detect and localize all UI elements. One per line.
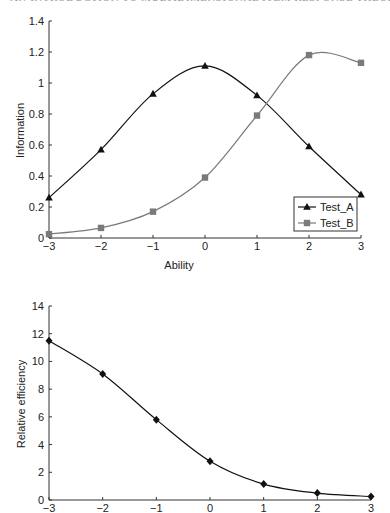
series-line	[49, 341, 371, 497]
y-axis-label: Information	[14, 103, 26, 158]
x-tick-label: −1	[150, 502, 163, 513]
square-marker	[202, 174, 208, 180]
y-tick-label: 6	[38, 411, 44, 423]
diamond-marker	[368, 493, 375, 501]
y-tick-label: 1	[38, 77, 44, 89]
x-tick-label: 0	[202, 240, 208, 252]
x-tick-label: 2	[306, 240, 312, 252]
x-tick-label: 3	[368, 502, 374, 513]
y-tick-label: 8	[38, 383, 44, 395]
square-marker	[150, 208, 156, 214]
relative-efficiency-chart: 02468101214−3−2−10123Relative efficiency	[15, 300, 375, 513]
y-tick-label: 1.2	[29, 46, 44, 58]
x-tick-label: 0	[207, 502, 213, 513]
y-axis-label: Relative efficiency	[15, 359, 27, 448]
square-marker	[254, 112, 260, 118]
x-tick-label: 3	[358, 240, 364, 252]
y-tick-label: 1.4	[29, 15, 44, 27]
y-tick-label: 14	[32, 300, 44, 312]
triangle-marker	[149, 90, 157, 97]
y-tick-label: 0.2	[29, 201, 44, 213]
x-tick-label: −3	[43, 502, 56, 513]
y-tick-label: 0.4	[29, 170, 44, 182]
x-tick-label: −3	[43, 240, 56, 252]
information-chart: 00.20.40.60.811.21.4−3−2−10123AbilityInf…	[14, 15, 365, 271]
x-tick-label: −2	[95, 240, 108, 252]
diamond-marker	[207, 457, 214, 465]
legend-label: Test_B	[320, 217, 354, 229]
square-marker	[306, 52, 312, 58]
y-tick-label: 12	[32, 328, 44, 340]
chart-canvas: 00.20.40.60.811.21.4−3−2−10123AbilityInf…	[0, 0, 390, 513]
x-tick-label: 2	[314, 502, 320, 513]
square-marker	[46, 231, 52, 237]
diamond-marker	[260, 480, 267, 488]
diamond-marker	[314, 489, 321, 497]
legend-label: Test_A	[320, 201, 354, 213]
legend: Test_ATest_B	[294, 197, 357, 231]
diamond-marker	[46, 337, 53, 345]
y-tick-label: 10	[32, 355, 44, 367]
x-tick-label: −2	[96, 502, 109, 513]
x-tick-label: −1	[147, 240, 160, 252]
square-marker	[304, 220, 310, 226]
triangle-marker	[253, 91, 261, 98]
y-tick-label: 0.8	[29, 108, 44, 120]
y-tick-label: 2	[38, 466, 44, 478]
x-tick-label: 1	[254, 240, 260, 252]
triangle-marker	[201, 62, 209, 69]
y-tick-label: 4	[38, 439, 44, 451]
y-tick-label: 0.6	[29, 139, 44, 151]
square-marker	[358, 60, 364, 66]
square-marker	[98, 225, 104, 231]
x-tick-label: 1	[261, 502, 267, 513]
x-axis-label: Ability	[164, 259, 194, 271]
diamond-marker	[99, 370, 106, 378]
